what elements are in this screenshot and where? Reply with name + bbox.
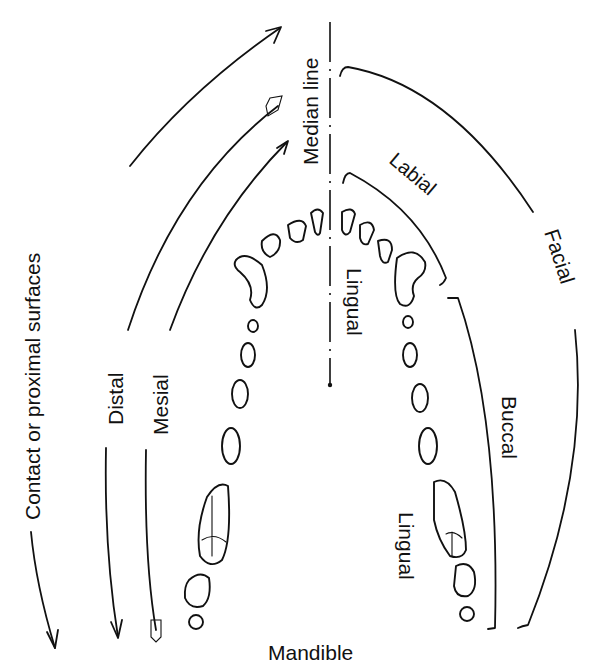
- tooth-incisor: [288, 221, 306, 242]
- mandible-caption: Mandible: [268, 641, 353, 664]
- teeth-left-posterior: [185, 320, 258, 629]
- tooth-incisor: [360, 222, 374, 244]
- mesial-label: Mesial: [149, 374, 172, 435]
- tooth-canine: [395, 252, 425, 305]
- contact-arrow: [31, 27, 281, 648]
- facial-label: Facial: [540, 226, 579, 286]
- median-line: [328, 22, 332, 387]
- lingual-anterior-label: Lingual: [343, 268, 366, 336]
- tooth-lateral: [262, 234, 280, 257]
- labial-label: Labial: [385, 148, 440, 199]
- tooth-incisor: [342, 209, 355, 234]
- tooth-incisor: [311, 210, 323, 235]
- median-line-label: Median line: [299, 58, 322, 165]
- dental-arch-diagram: Median line Facial Labial Buccal Lingual…: [0, 0, 599, 668]
- lingual-posterior-label: Lingual: [395, 512, 418, 580]
- buccal-label: Buccal: [498, 396, 521, 459]
- tooth-canine: [235, 256, 267, 308]
- contact-label: Contact or proximal surfaces: [21, 253, 44, 520]
- distal-label: Distal: [104, 372, 127, 425]
- tooth-lateral: [378, 240, 392, 263]
- distal-arrow: [106, 106, 278, 638]
